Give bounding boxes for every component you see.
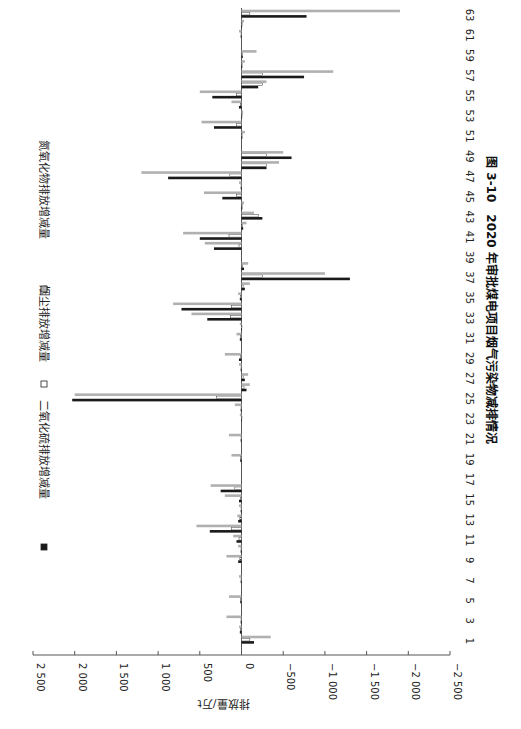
bar-so2	[242, 156, 292, 159]
bar-so2	[242, 167, 267, 170]
category-tick-label: 5	[464, 597, 475, 603]
value-axis-tick-label: −1 000	[327, 663, 338, 700]
bar-dust	[241, 598, 242, 601]
bar-so2	[214, 126, 242, 129]
bar-dust	[242, 275, 263, 278]
bar-nox	[242, 272, 325, 275]
bar-nox	[242, 131, 245, 134]
bar-dust	[242, 214, 259, 217]
bar-nox	[242, 70, 334, 73]
bar-so2	[240, 338, 242, 341]
bar-so2	[241, 550, 242, 553]
category-tick-label: 3	[464, 618, 475, 624]
bar-nox	[242, 636, 271, 639]
bar-dust	[241, 457, 242, 460]
bar-so2	[241, 581, 242, 584]
bar-dust	[242, 638, 250, 641]
bar-so2	[242, 227, 244, 230]
bar-dust	[241, 507, 242, 510]
bar-so2	[242, 641, 255, 644]
bar-so2	[239, 358, 242, 361]
rotated-bar-chart: 2 5002 0001 5001 0005000−500−1 000−1 500…	[0, 0, 521, 729]
category-tick-label: 45	[464, 190, 475, 203]
bar-nox	[242, 202, 245, 205]
bar-dust	[242, 63, 243, 66]
value-axis-title: 排放量/万t	[197, 697, 250, 711]
bar-so2	[241, 409, 242, 412]
bar-so2	[242, 207, 243, 210]
bar-dust	[236, 123, 241, 126]
bar-nox	[226, 555, 241, 558]
bar-nox	[239, 30, 242, 33]
category-tick-label: 19	[464, 453, 475, 466]
bar-so2	[241, 419, 242, 422]
bar-dust	[242, 83, 263, 86]
bar-nox	[226, 616, 241, 619]
bar-nox	[238, 545, 241, 548]
bar-nox	[242, 80, 267, 83]
value-axis-tick-label: 1 500	[118, 663, 129, 692]
bar-so2	[221, 490, 242, 493]
category-tick-label: 41	[464, 231, 475, 244]
bar-dust	[231, 305, 241, 308]
category-tick-label: 39	[464, 251, 475, 264]
bar-dust	[216, 396, 241, 399]
category-tick-label: 31	[464, 332, 475, 345]
bar-so2	[242, 116, 243, 119]
bar-dust	[241, 366, 242, 369]
bar-nox	[141, 171, 241, 174]
category-tick-label: 7	[464, 577, 475, 583]
bar-dust	[236, 93, 241, 96]
legend-swatch	[41, 286, 47, 292]
bar-so2	[242, 55, 243, 58]
bar-so2	[242, 76, 305, 79]
value-axis-tick-label: 0	[244, 663, 255, 669]
bar-dust	[242, 53, 243, 56]
bar-so2	[242, 217, 263, 220]
bar-dust	[241, 436, 242, 439]
value-axis-tick-label: −2 500	[452, 663, 463, 700]
bar-dust	[230, 174, 242, 177]
category-tick-label: 47	[464, 170, 475, 183]
bar-dust	[241, 416, 242, 419]
category-tick-label: 17	[464, 473, 475, 486]
bar-dust	[241, 497, 242, 500]
bar-dust	[242, 386, 245, 389]
bar-so2	[242, 288, 245, 291]
bar-nox	[242, 10, 400, 13]
bar-so2	[168, 177, 241, 180]
bar-dust	[240, 517, 242, 520]
bar-dust	[241, 335, 242, 338]
bar-so2	[241, 187, 242, 190]
category-tick-label: 13	[464, 513, 475, 526]
bar-nox	[239, 504, 242, 507]
bar-nox	[225, 353, 242, 356]
legend-swatch	[41, 381, 47, 387]
bar-dust	[239, 245, 242, 248]
bar-so2	[239, 500, 242, 503]
bar-so2	[242, 136, 243, 139]
bar-dust	[242, 164, 267, 167]
category-tick-label: 61	[464, 29, 475, 42]
bar-nox	[242, 20, 245, 23]
category-tick-label: 11	[464, 534, 475, 547]
value-axis-tick-label: 2 500	[35, 663, 46, 692]
bar-nox	[231, 454, 241, 457]
bar-dust	[240, 103, 241, 106]
bar-dust	[240, 558, 242, 561]
category-tick-label: 55	[464, 89, 475, 102]
bar-nox	[200, 90, 242, 93]
value-axis-tick-label: −2 000	[410, 663, 421, 700]
category-tick-label: 63	[464, 9, 475, 22]
bar-so2	[241, 328, 242, 331]
bar-nox	[242, 161, 280, 164]
bar-so2	[242, 86, 259, 89]
bar-so2	[200, 237, 242, 240]
bar-so2	[242, 389, 247, 392]
bar-dust	[231, 315, 242, 318]
bar-nox	[239, 626, 242, 629]
bar-dust	[242, 265, 243, 268]
bar-dust	[242, 376, 244, 379]
bar-dust	[242, 134, 243, 137]
bar-dust	[241, 578, 242, 581]
